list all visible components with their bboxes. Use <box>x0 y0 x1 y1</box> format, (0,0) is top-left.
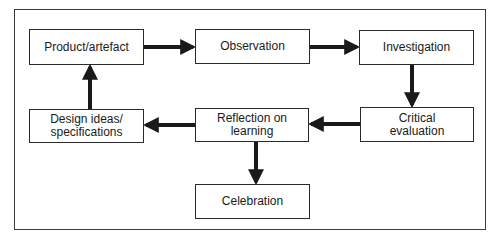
node-investigation: Investigation <box>359 30 474 65</box>
node-label: Observation <box>220 40 285 53</box>
node-reflection-on-learning: Reflection on learning <box>195 108 309 142</box>
node-label: Critical evaluation <box>390 112 445 138</box>
node-observation: Observation <box>195 29 310 64</box>
node-critical-evaluation: Critical evaluation <box>360 107 474 142</box>
node-label: Reflection on learning <box>217 112 287 138</box>
node-label: Product/artefact <box>44 41 129 54</box>
node-label: Celebration <box>222 195 283 208</box>
node-celebration: Celebration <box>195 184 310 219</box>
node-design-ideas-specifications: Design ideas/ specifications <box>29 109 144 143</box>
node-product-artefact: Product/artefact <box>29 29 144 65</box>
node-label: Investigation <box>383 41 450 54</box>
node-label: Design ideas/ specifications <box>50 113 123 139</box>
